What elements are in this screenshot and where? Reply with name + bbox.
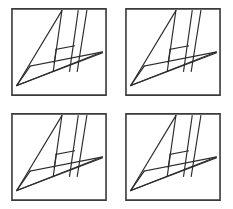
panel-bottom-left[interactable] bbox=[11, 113, 107, 201]
panel-top-right[interactable] bbox=[125, 8, 221, 96]
panel-drawing bbox=[125, 8, 221, 96]
panel-drawing bbox=[11, 8, 107, 96]
panel-drawing bbox=[11, 113, 107, 201]
panel-drawing bbox=[125, 113, 221, 201]
panel-top-left[interactable] bbox=[11, 8, 107, 96]
panel-bottom-right[interactable] bbox=[125, 113, 221, 201]
figure-grid bbox=[0, 0, 233, 209]
